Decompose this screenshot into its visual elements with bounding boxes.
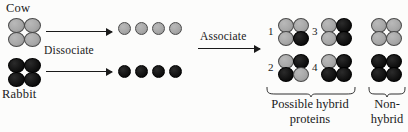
monomer-gray	[152, 22, 165, 35]
protein-hybridization-diagram: Cow Rabbit Dissociate Associate 1	[0, 0, 408, 132]
dissociate-arrow-bottom	[46, 71, 112, 72]
rabbit-label: Rabbit	[2, 88, 37, 101]
monomer-black	[152, 65, 165, 78]
nonhybrid-tetramer-cow	[371, 18, 403, 47]
monomer-black	[169, 65, 182, 78]
dissociate-label: Dissociate	[44, 44, 94, 56]
monomer-black	[135, 65, 148, 78]
monomer-gray	[118, 22, 131, 35]
subunit-black	[278, 67, 294, 82]
subunit-gray	[278, 31, 294, 46]
associate-arrow	[198, 48, 260, 49]
dissociate-arrow-top	[46, 31, 112, 32]
cow-monomer-row	[118, 22, 174, 38]
subunit-black	[24, 58, 41, 73]
hybrid-3-number: 3	[312, 26, 318, 38]
subunit-black	[336, 31, 352, 46]
possible-hybrid-caption-line1: Possible hybrid	[258, 98, 362, 111]
subunit-black	[371, 67, 387, 82]
possible-hybrid-caption-line2: proteins	[258, 113, 362, 126]
subunit-gray	[321, 31, 337, 46]
cow-label: Cow	[6, 2, 30, 15]
subunit-black	[8, 72, 25, 87]
subunit-gray	[293, 67, 309, 82]
hybrid-tetramer-2	[278, 54, 310, 83]
hybrid-1-number: 1	[268, 26, 274, 38]
hybrid-4-number: 4	[312, 62, 318, 74]
subunit-black	[336, 67, 352, 82]
rabbit-monomer-row	[118, 65, 174, 81]
subunit-gray	[371, 31, 387, 46]
nonhybrid-tetramer-rabbit	[371, 54, 403, 83]
nonhybrid-caption-line2: hybrid	[365, 113, 408, 126]
subunit-black	[24, 72, 41, 87]
hybrid-tetramer-1	[278, 18, 310, 47]
monomer-gray	[135, 22, 148, 35]
hybrid-tetramer-4	[321, 54, 353, 83]
subunit-black	[293, 31, 309, 46]
subunit-gray	[8, 32, 25, 47]
rabbit-tetramer	[8, 58, 42, 88]
cow-tetramer	[8, 18, 42, 48]
hybrid-2-number: 2	[268, 62, 274, 74]
monomer-black	[118, 65, 131, 78]
subunit-gray	[24, 32, 41, 47]
subunit-black	[321, 67, 337, 82]
hybrid-tetramer-3	[321, 18, 353, 47]
monomer-gray	[169, 22, 182, 35]
associate-label: Associate	[200, 30, 247, 42]
subunit-black	[8, 58, 25, 73]
subunit-gray	[8, 18, 25, 33]
subunit-black	[386, 67, 402, 82]
nonhybrid-caption-line1: Non-	[365, 98, 408, 111]
subunit-gray	[386, 31, 402, 46]
subunit-gray	[24, 18, 41, 33]
